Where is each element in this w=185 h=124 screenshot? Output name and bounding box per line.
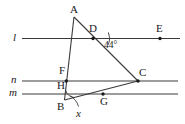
point-label-B: B [57,101,64,112]
line-label-m: m [9,87,17,98]
triangle-abc-group [65,17,139,100]
point-label-D: D [89,23,97,34]
point-label-G: G [100,96,108,107]
point-dot-E [158,37,161,40]
point-label-E: E [156,23,163,34]
point-dot-H [65,79,68,82]
angle-label-x: x [76,108,81,119]
point-label-A: A [70,4,78,15]
segment-AB [65,17,75,100]
parallel-lines-group [22,39,180,95]
geometry-canvas [0,0,185,124]
point-label-H: H [57,80,65,91]
angle-label-44-degrees: 44° [104,41,117,51]
point-label-C: C [139,67,146,78]
geometry-figure: l n m A D E F C H G B 44° x [0,0,185,124]
line-label-n: n [11,74,17,85]
point-dot-C [136,79,139,82]
point-label-F: F [59,65,65,76]
point-dot-D [91,37,94,40]
line-label-l: l [13,32,16,43]
